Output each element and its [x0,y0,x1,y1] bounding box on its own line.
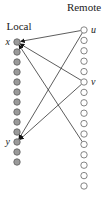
remote-node [81,48,87,54]
nodes-group [14,27,87,189]
local-node [14,59,20,65]
edge-arrow [19,45,82,142]
remote-node [81,141,87,147]
local-remote-diagram: Remote Local xyuv [0,0,104,202]
edge-arrow [20,31,80,42]
edge-arrow [20,84,82,140]
node-label-x: x [5,36,11,47]
local-node [14,149,20,155]
local-node [14,99,20,105]
remote-node [81,68,87,74]
local-node [14,39,20,45]
local-node [14,129,20,135]
remote-node [81,110,87,116]
remote-node [81,162,87,168]
remote-node [81,58,87,64]
local-node [14,159,20,165]
local-node [14,49,20,55]
local-node [14,79,20,85]
remote-node [81,131,87,137]
edges-group [19,31,83,142]
remote-node [81,27,87,33]
remote-node [81,152,87,158]
remote-node [81,37,87,43]
local-node [14,119,20,125]
remote-column-label: Remote [67,1,101,13]
remote-node [81,79,87,85]
local-node [14,69,20,75]
local-node [14,89,20,95]
remote-node [81,120,87,126]
node-label-y: y [5,136,11,147]
local-column-label: Local [6,20,31,32]
remote-node [81,100,87,106]
local-node [14,139,20,145]
node-label-u: u [91,24,96,35]
node-label-v: v [91,76,96,87]
local-node [14,109,20,115]
remote-node [81,172,87,178]
remote-node [81,183,87,189]
remote-node [81,89,87,95]
